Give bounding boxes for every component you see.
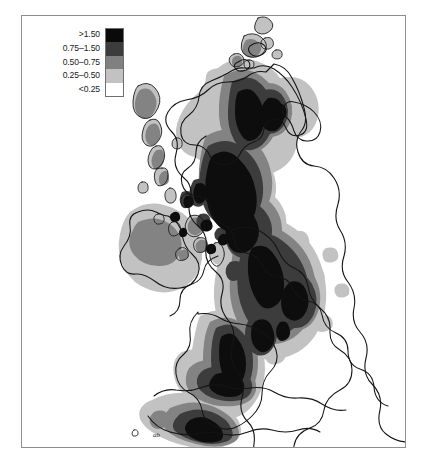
legend-label: 0.25–0.50 [44,69,105,83]
legend-label: 0.75–1.50 [44,42,105,56]
legend-row: 0.50–0.75 [44,56,124,70]
legend-row: 0.75–1.50 [44,42,124,56]
legend-row: 0.25–0.50 [44,69,124,83]
legend: >1.50 0.75–1.50 0.50–0.75 0.25–0.50 <0.2… [44,28,124,97]
legend-label: 0.50–0.75 [44,56,105,70]
scale-mark: ab [153,431,160,439]
legend-row: >1.50 [44,28,124,42]
legend-swatch [105,28,124,42]
figure-root: ab >1.50 0.75–1.50 0.50–0.75 0.25–0.50 <… [0,0,426,463]
legend-row: <0.25 [44,83,124,97]
legend-label: <0.25 [44,83,105,97]
legend-swatch [105,83,124,97]
legend-label: >1.50 [44,28,105,42]
legend-swatch [105,42,124,56]
legend-swatch [105,69,124,83]
legend-swatch [105,56,124,70]
